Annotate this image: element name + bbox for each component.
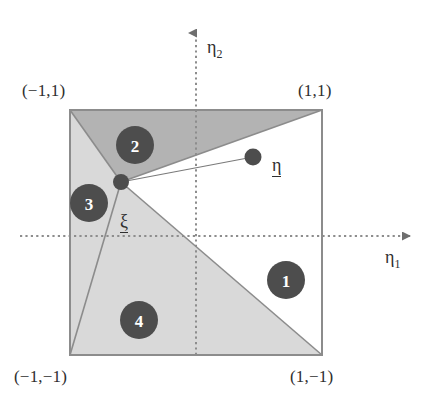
xi-point-label: ξ (120, 211, 128, 233)
eta-point-label-wrap: η (272, 156, 281, 174)
eta2-axis-label-subscript: 2 (216, 47, 222, 61)
eta1-axis-label: η1 (385, 248, 400, 270)
region-number-3: 3 (85, 196, 94, 213)
eta-point-marker (245, 149, 262, 166)
corner-label-bottom-left: (−1,−1) (14, 368, 67, 385)
corner-label-top-left: (−1,1) (22, 82, 65, 99)
eta-point-label: η (272, 155, 281, 177)
quadrilateral-subdivision-diagram (0, 0, 432, 418)
region-number-4: 4 (135, 313, 144, 330)
eta1-axis-label-subscript: 1 (394, 257, 400, 271)
region-number-1: 1 (282, 273, 291, 290)
corner-label-top-right: (1,1) (298, 82, 332, 99)
eta2-axis-label: η2 (207, 38, 222, 60)
eta2-axis-label-glyph: η (207, 37, 216, 57)
xi-point-marker (113, 174, 129, 190)
figure-canvas: 1 2 3 4 (−1,1) (1,1) (−1,−1) (1,−1) η2 η… (0, 0, 432, 418)
region-number-2: 2 (131, 138, 140, 155)
eta1-axis-label-glyph: η (385, 247, 394, 267)
corner-label-bottom-right: (1,−1) (290, 368, 333, 385)
xi-point-label-wrap: ξ (120, 212, 128, 230)
